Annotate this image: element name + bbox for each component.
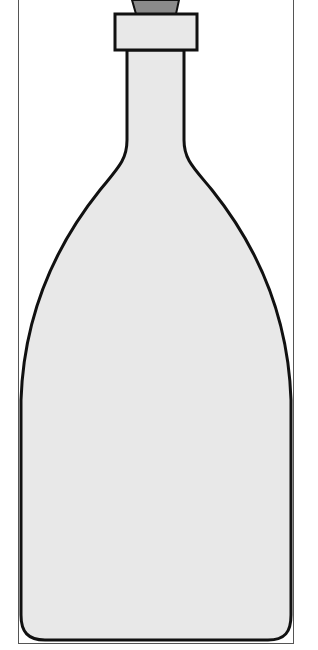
bottle-cap	[115, 14, 197, 50]
bottle-illustration	[0, 0, 318, 650]
stopper	[132, 0, 179, 14]
bottle-body	[21, 50, 291, 640]
